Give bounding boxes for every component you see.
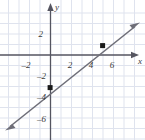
- y-axis-arrow-icon: [47, 3, 53, 11]
- x-tick-label: 2: [68, 60, 73, 70]
- y-tick-label: –2: [36, 71, 47, 81]
- y-tick-label: –4: [36, 92, 47, 102]
- line-arrow-lower-left-icon: [5, 124, 16, 131]
- y-tick-label: 2: [39, 29, 44, 39]
- grid-lines: [0, 0, 145, 140]
- x-tick-label: 4: [89, 60, 94, 70]
- y-tick-label: –6: [36, 114, 47, 124]
- x-axis: [0, 52, 139, 58]
- x-tick-label: 6: [110, 60, 115, 70]
- x-tick-label: –2: [21, 60, 32, 70]
- data-point-marker: [48, 85, 53, 90]
- y-axis-label: y: [54, 2, 59, 12]
- graph-svg: –2 2 4 6 2 –2 –4 –6 y x: [0, 0, 145, 140]
- data-point-marker: [100, 43, 105, 48]
- coordinate-graph-figure: –2 2 4 6 2 –2 –4 –6 y x: [0, 0, 145, 140]
- x-axis-label: x: [137, 56, 142, 66]
- plotted-points: [48, 43, 106, 90]
